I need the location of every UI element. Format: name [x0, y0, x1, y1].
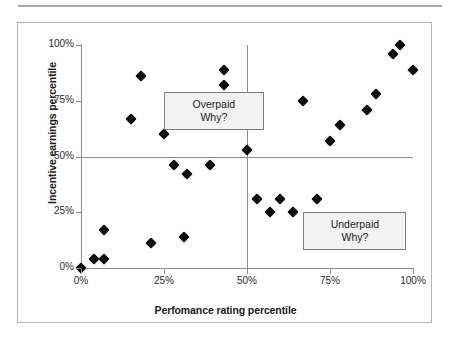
x-axis-title: Perfomance rating percentile [18, 304, 433, 316]
data-point-marker [182, 169, 193, 180]
x-axis-tick [164, 269, 165, 274]
data-point-marker [205, 160, 216, 171]
x-axis-tick-label: 50% [222, 275, 272, 286]
data-point-marker [241, 144, 252, 155]
y-axis-tick-label: 25% [28, 205, 74, 216]
data-point-marker [99, 253, 110, 264]
x-axis-tick-label: 25% [139, 275, 189, 286]
data-point-marker [99, 224, 110, 235]
data-point-marker [298, 95, 309, 106]
data-point-marker [361, 104, 372, 115]
data-point-marker [334, 120, 345, 131]
x-axis-tick-label: 100% [388, 275, 438, 286]
data-point-marker [251, 193, 262, 204]
data-point-marker [265, 207, 276, 218]
y-axis-tick-labels: 0%25%50%75%100% [24, 23, 74, 283]
annotation-callout-underpaid: UnderpaidWhy? [303, 212, 406, 250]
chart-figure: Incentive earnings percentile 0%25%50%75… [17, 22, 432, 323]
annotation-line: Why? [200, 111, 227, 124]
data-point-marker [218, 64, 229, 75]
data-point-marker [158, 129, 169, 140]
x-axis-tick [81, 269, 82, 274]
y-axis-tick-label: 50% [28, 150, 74, 161]
data-point-marker [394, 39, 405, 50]
data-point-marker [387, 48, 398, 59]
data-point-marker [145, 238, 156, 249]
annotation-line: Overpaid [192, 98, 235, 111]
data-point-marker [168, 160, 179, 171]
reference-line-vertical [247, 45, 248, 268]
y-axis-tick-label: 75% [28, 94, 74, 105]
data-point-marker [218, 79, 229, 90]
y-axis-tick [76, 101, 81, 102]
data-point-marker [275, 193, 286, 204]
page-top-rule [18, 5, 442, 7]
x-axis-tick [413, 269, 414, 274]
data-point-marker [371, 88, 382, 99]
data-point-marker [407, 64, 418, 75]
annotation-callout-overpaid: OverpaidWhy? [164, 92, 264, 130]
x-axis-tick [330, 269, 331, 274]
data-point-marker [125, 113, 136, 124]
y-axis-tick-label: 100% [28, 38, 74, 49]
annotation-line: Underpaid [331, 218, 379, 231]
y-axis-tick-label: 0% [28, 261, 74, 272]
x-axis-tick-label: 75% [305, 275, 355, 286]
data-point-marker [288, 207, 299, 218]
data-point-marker [178, 231, 189, 242]
y-axis-tick [76, 212, 81, 213]
y-axis-tick [76, 157, 81, 158]
x-axis-tick-label: 0% [56, 275, 106, 286]
y-axis-tick [76, 45, 81, 46]
x-axis-tick [247, 269, 248, 274]
data-point-marker [135, 71, 146, 82]
data-point-marker [311, 193, 322, 204]
annotation-line: Why? [341, 231, 368, 244]
data-point-marker [324, 135, 335, 146]
